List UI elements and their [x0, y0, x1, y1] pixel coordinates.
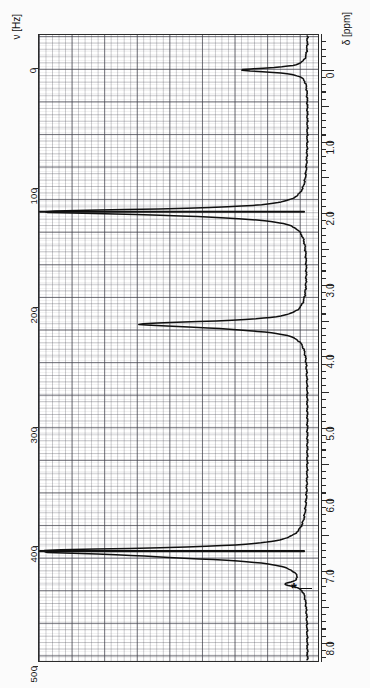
ppm-tick-mark	[322, 349, 326, 350]
ppm-tick-mark	[322, 156, 326, 157]
ppm-tick-4.0: 4.0	[325, 355, 336, 369]
hz-tick-200: 200	[28, 307, 39, 324]
ppm-tick-7.0: 7.0	[325, 570, 336, 584]
ppm-tick-mark	[322, 270, 326, 271]
hz-axis: ν [Hz] 0100200300400500	[0, 0, 38, 688]
ppm-tick-mark	[322, 306, 326, 307]
ppm-tick-6.0: 6.0	[325, 498, 336, 512]
spectrum-page: ν [Hz] 0100200300400500 * δ [ppm] 01.02.…	[0, 0, 370, 688]
ppm-tick-mark	[322, 263, 326, 264]
ppm-tick-mark	[322, 442, 326, 443]
ppm-tick-mark	[322, 600, 326, 601]
annotation-pointer-line	[300, 588, 312, 589]
ppm-tick-mark	[322, 421, 326, 422]
ppm-tick-mark	[322, 113, 326, 114]
ppm-tick-mark	[322, 199, 326, 200]
ppm-tick-mark	[322, 99, 326, 100]
ppm-tick-mark	[322, 371, 326, 372]
ppm-tick-mark	[322, 206, 326, 207]
ppm-tick-mark	[322, 63, 326, 64]
ppm-tick-mark	[322, 177, 329, 178]
ppm-tick-mark	[322, 249, 329, 250]
ppm-tick-mark	[322, 335, 326, 336]
ppm-tick-mark	[322, 378, 326, 379]
hz-tick-300: 300	[28, 426, 39, 443]
ppm-tick-0: 0	[325, 73, 336, 79]
ppm-tick-mark	[322, 457, 326, 458]
ppm-tick-mark	[322, 478, 326, 479]
ppm-tick-mark	[322, 607, 329, 608]
ppm-tick-mark	[322, 120, 326, 121]
ppm-tick-mark	[322, 192, 326, 193]
ppm-tick-mark	[322, 84, 326, 85]
ppm-tick-2.0: 2.0	[325, 212, 336, 226]
ppm-tick-3.0: 3.0	[325, 283, 336, 297]
hz-axis-title: ν [Hz]	[11, 14, 22, 40]
ppm-tick-mark	[322, 170, 326, 171]
ppm-tick-mark	[322, 535, 329, 536]
ppm-tick-mark	[322, 127, 326, 128]
ppm-tick-mark	[322, 392, 329, 393]
hz-tick-400: 400	[28, 546, 39, 563]
ppm-tick-mark	[322, 278, 326, 279]
ppm-tick-mark	[322, 628, 326, 629]
ppm-tick-mark	[322, 106, 329, 107]
spectrum-trace	[38, 34, 319, 662]
ppm-tick-mark	[322, 485, 326, 486]
ppm-tick-mark	[322, 550, 326, 551]
ppm-tick-1.0: 1.0	[325, 140, 336, 154]
ppm-tick-mark	[322, 543, 326, 544]
ppm-tick-mark	[322, 242, 326, 243]
hz-tick-500: 500	[28, 666, 39, 683]
spectrum-curve	[44, 36, 308, 660]
ppm-tick-mark	[322, 399, 326, 400]
ppm-tick-8.0: 8.0	[325, 641, 336, 655]
ppm-tick-mark	[322, 235, 326, 236]
ppm-tick-mark	[322, 464, 329, 465]
ppm-tick-mark	[322, 614, 326, 615]
ppm-tick-mark	[322, 385, 326, 386]
ppm-tick-mark	[322, 163, 326, 164]
ppm-tick-mark	[322, 657, 326, 658]
ppm-tick-mark	[322, 521, 326, 522]
hz-tick-mark	[33, 666, 38, 667]
ppm-tick-mark	[322, 134, 326, 135]
ppm-tick-mark	[322, 342, 326, 343]
ppm-tick-mark	[322, 471, 326, 472]
ppm-tick-mark	[322, 41, 326, 42]
ppm-tick-mark	[322, 586, 326, 587]
ppm-tick-mark	[322, 514, 326, 515]
ppm-tick-mark	[322, 557, 326, 558]
ppm-tick-mark	[322, 91, 326, 92]
ppm-tick-5.0: 5.0	[325, 427, 336, 441]
ppm-tick-mark	[322, 228, 326, 229]
ppm-tick-mark	[322, 492, 326, 493]
ppm-ruler	[321, 34, 335, 662]
ppm-tick-mark	[322, 564, 326, 565]
ppm-tick-mark	[322, 407, 326, 408]
ppm-tick-mark	[322, 321, 329, 322]
ppm-tick-mark	[322, 185, 326, 186]
ppm-tick-mark	[322, 256, 326, 257]
ppm-tick-mark	[322, 313, 326, 314]
ppm-tick-mark	[322, 70, 334, 71]
ppm-tick-mark	[322, 593, 326, 594]
ppm-tick-mark	[322, 299, 326, 300]
hz-tick-100: 100	[28, 187, 39, 204]
ppm-tick-mark	[322, 528, 326, 529]
ppm-tick-mark	[322, 449, 326, 450]
ppm-tick-mark	[322, 621, 326, 622]
ppm-tick-mark	[322, 414, 326, 415]
asterisk-annotation: *	[291, 580, 297, 595]
ppm-axis: δ [ppm] 01.02.03.04.05.06.07.08.0	[319, 0, 370, 688]
ppm-tick-mark	[322, 328, 326, 329]
ppm-tick-mark	[322, 49, 326, 50]
ppm-tick-mark	[322, 636, 326, 637]
ppm-axis-title: δ [ppm]	[341, 12, 352, 45]
ppm-tick-mark	[322, 56, 326, 57]
